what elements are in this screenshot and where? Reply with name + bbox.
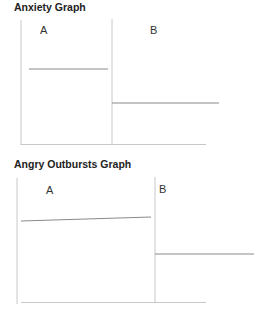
angry-phase-a-level <box>21 217 151 221</box>
angry-outbursts-graph <box>17 177 254 304</box>
anxiety-graph <box>21 19 219 145</box>
graphs-canvas <box>0 0 262 315</box>
